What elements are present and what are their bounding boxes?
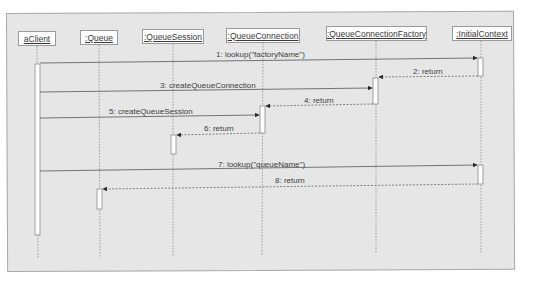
lifeline-queueconnection — [262, 43, 263, 255]
message-4-label: 4: return — [304, 96, 334, 105]
message-8-label: 8: return — [275, 176, 305, 185]
message-7-label: 7: lookup("queueName") — [218, 160, 305, 169]
activation-queuesession — [171, 135, 176, 154]
activation-queueconnectionfactory — [373, 78, 378, 104]
message-6-arrow — [177, 133, 260, 135]
activation-initialcontext-2 — [478, 165, 483, 184]
message-6-label: 6: return — [204, 124, 234, 133]
activation-queue — [97, 189, 102, 209]
activation-aclient — [35, 64, 40, 235]
lifeline-queue — [99, 45, 100, 257]
message-3-label: 3: createQueueConnection — [160, 81, 256, 90]
activation-initialcontext-1 — [478, 58, 483, 76]
message-2-label: 2: return — [413, 67, 443, 76]
activation-queueconnection — [260, 106, 265, 133]
message-2-arrow — [379, 76, 478, 77]
message-1-label: 1: lookup("factoryName") — [216, 50, 305, 59]
sequence-diagram-canvas — [0, 0, 534, 281]
message-5-label: 5: createQueueSession — [109, 107, 193, 116]
